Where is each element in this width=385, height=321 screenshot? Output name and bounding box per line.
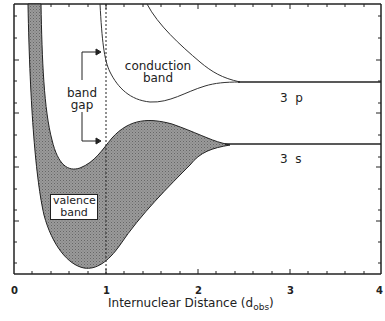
x-tick-4: 4 bbox=[376, 285, 383, 296]
x-tick-0: 0 bbox=[11, 285, 18, 296]
x-axis-label-close: ) bbox=[269, 296, 274, 310]
x-tick-2: 2 bbox=[195, 285, 202, 296]
valence-band-label: valence band bbox=[50, 194, 98, 220]
conduction-band-label: conduction band bbox=[118, 60, 198, 84]
valence-band-region bbox=[28, 4, 230, 268]
conduction-band-lower-curve bbox=[100, 4, 240, 102]
x-tick-1: 1 bbox=[103, 285, 110, 296]
band-gap-label-line2: gap bbox=[64, 99, 100, 111]
x-axis-label: Internuclear Distance (dobs) bbox=[108, 296, 274, 312]
x-axis-label-subscript: obs bbox=[253, 302, 269, 312]
level-3s-label: 3 s bbox=[280, 153, 302, 165]
level-3p-label: 3 p bbox=[280, 92, 303, 104]
band-diagram-plot bbox=[0, 0, 385, 321]
conduction-band-label-line2: band bbox=[118, 72, 198, 84]
x-tick-3: 3 bbox=[287, 285, 294, 296]
valence-band-label-line2: band bbox=[53, 207, 95, 219]
x-axis-label-main: Internuclear Distance (d bbox=[108, 296, 253, 310]
band-gap-label: band gap bbox=[64, 87, 100, 111]
